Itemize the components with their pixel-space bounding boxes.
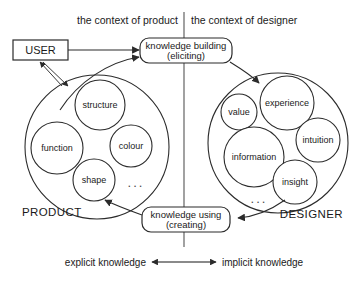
knowledge-cycle-diagram: the context of product the context of de… — [0, 0, 364, 285]
product-ellipsis: ... — [128, 175, 145, 190]
arrow-product-to-user — [40, 62, 62, 86]
knowledge-using-label-2: (creating) — [166, 219, 206, 230]
header-left-label: the context of product — [77, 14, 178, 26]
bubble-insight-label: insight — [282, 177, 309, 187]
user-label: USER — [25, 44, 56, 56]
bubble-shape-label: shape — [82, 175, 107, 185]
designer-label: DESIGNER — [280, 208, 343, 220]
knowledge-building-label-2: (eliciting) — [167, 50, 205, 61]
bubble-experience-label: experience — [265, 98, 309, 108]
bubble-function-label: function — [41, 143, 73, 153]
footer-left-label: explicit knowledge — [65, 257, 147, 268]
product-label: PRODUCT — [22, 206, 82, 218]
bubble-structure-label: structure — [82, 100, 117, 110]
bubble-value-label: value — [228, 107, 250, 117]
footer-right-label: implicit knowledge — [222, 257, 304, 268]
bubble-intuition-label: intuition — [302, 135, 333, 145]
designer-ellipsis: ... — [251, 191, 268, 206]
bubble-colour-label: colour — [119, 141, 144, 151]
bubble-information-label: information — [232, 152, 277, 162]
arrow-user-to-product — [43, 62, 68, 86]
header-right-label: the context of designer — [191, 14, 298, 26]
